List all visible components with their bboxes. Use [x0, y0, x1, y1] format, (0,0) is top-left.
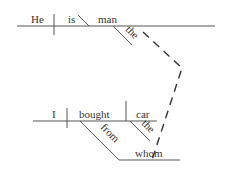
- main-verb: is: [68, 13, 75, 25]
- preposition-object-whom: whom: [135, 147, 163, 159]
- preposition-from: from: [99, 121, 123, 145]
- relative-pronoun-connector: [143, 32, 182, 160]
- sentence-diagram: He is man the I bought car the from whom: [0, 0, 251, 176]
- relative-verb: bought: [79, 108, 110, 120]
- main-verb-complement-divider: [78, 15, 89, 26]
- main-predicate-nominative: man: [98, 13, 117, 25]
- relative-subject: I: [52, 108, 56, 120]
- main-subject: He: [31, 13, 44, 25]
